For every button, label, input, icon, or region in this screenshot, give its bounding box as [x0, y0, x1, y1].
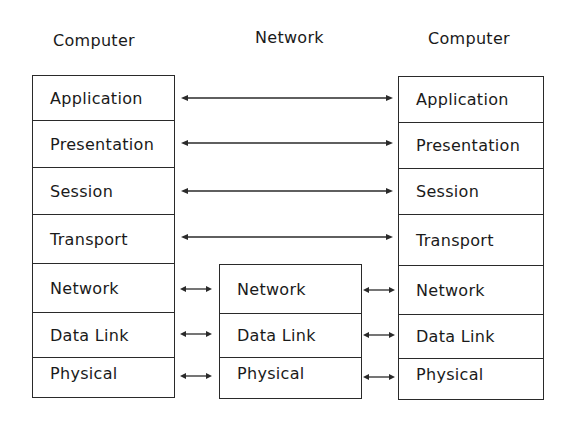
arrow-application-icon: [181, 93, 393, 103]
left-layer-session: Session: [33, 167, 174, 214]
arrow-left-physical-icon: [180, 371, 212, 381]
right-computer-stack: Application Presentation Session Transpo…: [398, 76, 544, 400]
arrow-right-physical-icon: [363, 372, 395, 382]
left-layer-transport: Transport: [33, 214, 174, 263]
arrow-presentation-icon: [181, 138, 393, 148]
right-layer-data-link: Data Link: [399, 314, 543, 358]
arrow-left-network-icon: [180, 284, 212, 294]
heading-left-computer: Computer: [53, 31, 135, 50]
right-layer-transport: Transport: [399, 214, 543, 265]
right-layer-presentation: Presentation: [399, 122, 543, 168]
left-layer-network: Network: [33, 263, 174, 312]
right-layer-session: Session: [399, 168, 543, 214]
left-layer-data-link: Data Link: [33, 312, 174, 357]
middle-layer-data-link: Data Link: [220, 313, 361, 357]
arrow-transport-icon: [181, 232, 393, 242]
network-stack: Network Data Link Physical: [219, 264, 362, 399]
heading-network: Network: [255, 28, 324, 47]
left-computer-stack: Application Presentation Session Transpo…: [32, 75, 175, 398]
arrow-right-network-icon: [363, 285, 395, 295]
left-layer-application: Application: [33, 76, 174, 120]
middle-layer-network: Network: [220, 265, 361, 313]
left-layer-presentation: Presentation: [33, 120, 174, 167]
right-layer-physical: Physical: [399, 358, 543, 393]
middle-layer-physical: Physical: [220, 357, 361, 391]
arrow-right-data-link-icon: [363, 330, 395, 340]
left-layer-physical: Physical: [33, 357, 174, 391]
arrow-session-icon: [181, 186, 393, 196]
right-layer-application: Application: [399, 77, 543, 122]
heading-right-computer: Computer: [428, 29, 510, 48]
right-layer-network: Network: [399, 265, 543, 314]
arrow-left-data-link-icon: [180, 329, 212, 339]
